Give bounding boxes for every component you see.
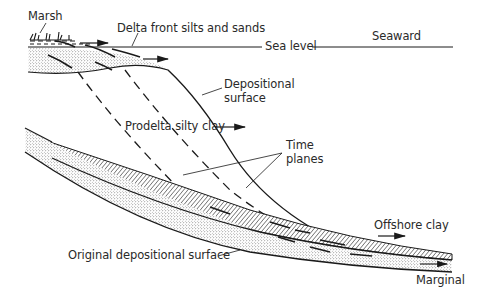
label-offshore-clay: Offshore clay — [374, 219, 449, 232]
label-sea-level: Sea level — [265, 40, 317, 53]
time-planes-leaders — [183, 153, 282, 188]
label-original-surface: Original depositional surface — [68, 249, 230, 262]
label-time-planes-1: Time — [286, 139, 314, 152]
label-seaward: Seaward — [372, 30, 421, 43]
label-delta-front: Delta front silts and sands — [117, 22, 265, 35]
label-depositional-surface-2: surface — [224, 92, 266, 105]
marsh-lines — [30, 23, 90, 44]
label-marginal: Marginal — [416, 274, 465, 287]
label-depositional-surface-1: Depositional — [224, 78, 295, 91]
label-marsh: Marsh — [28, 10, 62, 23]
label-prodelta: Prodelta silty clay — [125, 120, 225, 133]
leader-depositional-surface — [202, 88, 222, 95]
label-time-planes-2: planes — [286, 153, 323, 166]
